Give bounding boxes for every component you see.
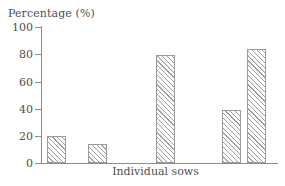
y-axis-tick-0 bbox=[35, 163, 42, 164]
y-axis-tick-label-60: 60 bbox=[0, 77, 33, 88]
y-axis-tick-40 bbox=[35, 109, 42, 110]
y-axis-tick-100 bbox=[35, 27, 42, 28]
y-axis-tick-20 bbox=[35, 136, 42, 137]
y-axis-line bbox=[41, 26, 42, 164]
y-axis-tick-80 bbox=[35, 54, 42, 55]
y-axis-tick-label-40: 40 bbox=[0, 104, 33, 115]
x-axis-title: Individual sows bbox=[0, 165, 285, 178]
y-axis-tick-label-100: 100 bbox=[0, 22, 33, 33]
bar-chart: Percentage (%) 100 80 60 40 20 0 Individ… bbox=[0, 0, 285, 186]
y-axis-tick-label-20: 20 bbox=[0, 131, 33, 142]
plot-area: 100 80 60 40 20 0 bbox=[0, 0, 285, 186]
bar-sow-2 bbox=[88, 144, 107, 163]
x-axis-line bbox=[41, 163, 278, 164]
bar-sow-4 bbox=[222, 110, 241, 163]
x-axis-title-text: Individual sows bbox=[112, 165, 199, 178]
bar-sow-5 bbox=[247, 49, 266, 163]
bar-sow-3 bbox=[156, 55, 175, 163]
y-axis-tick-label-80: 80 bbox=[0, 49, 33, 60]
y-axis-tick-60 bbox=[35, 82, 42, 83]
bar-sow-1 bbox=[47, 136, 66, 163]
